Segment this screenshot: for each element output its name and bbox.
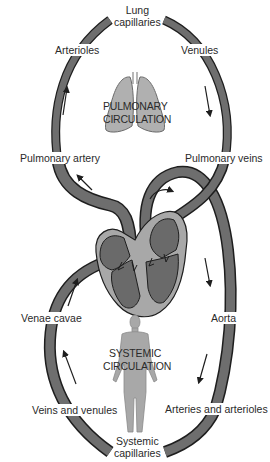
systemic-capillaries-line2: capillaries — [114, 447, 161, 459]
arrow-up-icon — [64, 352, 76, 384]
pulmonary-veins-label: Pulmonary veins — [184, 152, 264, 164]
venules-label: Venules — [180, 44, 219, 56]
lung-capillaries-line1: Lung — [114, 4, 161, 16]
pulmonary-title-line1: PULMONARY — [103, 100, 167, 113]
pulmonary-artery-label: Pulmonary artery — [19, 152, 101, 164]
systemic-title-line2: CIRCULATION — [103, 360, 167, 373]
human-figure-icon — [113, 315, 157, 432]
systemic-capillaries-label: Systemic capillaries — [113, 435, 162, 459]
systemic-circulation-title: SYSTEMIC CIRCULATION — [103, 347, 167, 373]
venae-cavae-vessel — [50, 262, 110, 452]
pulmonary-veins-vessel — [164, 20, 227, 160]
arterioles-label: Arterioles — [54, 44, 100, 56]
veins-venules-label: Veins and venules — [31, 404, 118, 416]
aorta-label: Aorta — [210, 312, 237, 324]
lung-capillaries-line2: capillaries — [114, 16, 161, 28]
arrow-down-icon — [205, 258, 210, 285]
pulmonary-arteries-vessel — [56, 20, 110, 162]
lung-capillaries-label: Lung capillaries — [113, 4, 162, 28]
venae-cavae-label: Venae cavae — [20, 312, 83, 324]
arteries-arterioles-label: Arteries and arterioles — [164, 403, 269, 415]
arrow-down-icon — [205, 86, 210, 115]
diagram-artwork — [0, 0, 270, 462]
systemic-title-line1: SYSTEMIC — [103, 347, 167, 360]
arrow-down-icon — [199, 354, 207, 382]
pulmonary-circulation-title: PULMONARY CIRCULATION — [103, 100, 167, 126]
pulmonary-title-line2: CIRCULATION — [103, 113, 167, 126]
systemic-capillaries-line1: Systemic — [114, 435, 161, 447]
circulation-diagram: Lung capillaries Arterioles Venules PULM… — [0, 0, 270, 462]
